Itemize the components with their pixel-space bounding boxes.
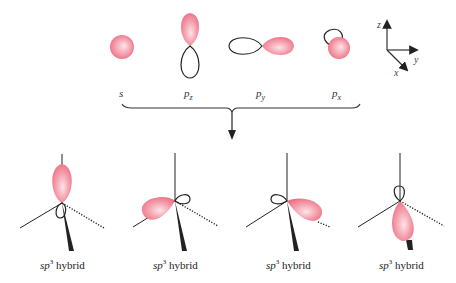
axis-label-z: z xyxy=(377,19,381,30)
label-py: py xyxy=(256,87,265,102)
label-s: s xyxy=(119,87,123,99)
caption-hybrid-3: sp3 hybrid xyxy=(266,258,311,271)
axes-icon xyxy=(387,24,414,68)
label-pz: pz xyxy=(184,87,193,102)
down-arrow xyxy=(228,113,236,140)
sp3-hybrid-3 xyxy=(246,153,330,251)
caption-hybrid-2: sp3 hybrid xyxy=(153,258,198,271)
sp3-hybrid-2 xyxy=(133,153,218,251)
orbital-diagram xyxy=(0,0,456,283)
combining-brace xyxy=(122,104,360,113)
axis-label-y: y xyxy=(414,54,418,65)
py-orbital xyxy=(229,37,294,55)
label-px: px xyxy=(332,87,341,102)
caption-hybrid-1: sp3 hybrid xyxy=(40,258,85,271)
axis-label-x: x xyxy=(394,67,398,78)
s-orbital xyxy=(110,35,134,59)
caption-hybrid-4: sp3 hybrid xyxy=(379,258,424,271)
sp3-hybrid-4 xyxy=(358,153,444,250)
pz-orbital xyxy=(181,13,199,78)
px-orbital xyxy=(324,29,350,59)
sp3-hybrid-1 xyxy=(20,154,104,251)
